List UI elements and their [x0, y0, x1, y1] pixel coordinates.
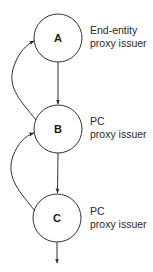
- node-c-letter: C: [53, 212, 61, 224]
- node-c-label-line2: proxy issuer: [90, 218, 147, 230]
- curved-arrow-b-to-a: [12, 41, 36, 120]
- node-a-label-line2: proxy issuer: [90, 37, 147, 49]
- node-c: C: [33, 194, 81, 242]
- arrow-b-to-c: [58, 153, 59, 193]
- node-b-letter: B: [54, 123, 62, 135]
- node-b: B: [34, 105, 82, 153]
- node-a-label-line1: End-entity: [90, 24, 138, 36]
- proxy-chain-diagram: A End-entity proxy issuer B PC proxy iss…: [0, 0, 153, 272]
- node-c-label-line1: PC: [90, 205, 105, 217]
- curved-arrow-c-to-b: [11, 133, 35, 211]
- node-a: A: [34, 14, 82, 62]
- node-b-label-line2: proxy issuer: [90, 128, 147, 140]
- node-a-letter: A: [54, 32, 62, 44]
- node-b-label-line1: PC: [90, 115, 105, 127]
